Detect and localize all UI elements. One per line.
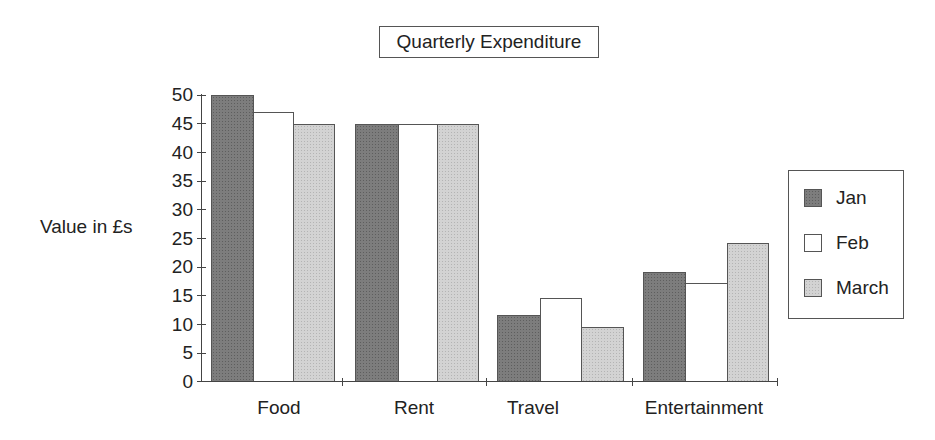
y-tick-label: 0 — [153, 372, 193, 391]
y-tick-mark — [197, 123, 206, 124]
x-category-label-travel: Travel — [453, 397, 613, 419]
legend-item-march: March — [804, 277, 889, 299]
y-tick-mark — [197, 95, 206, 96]
chart-title-text: Quarterly Expenditure — [397, 31, 582, 53]
bar-travel-march — [581, 327, 624, 382]
y-tick-mark — [197, 209, 206, 210]
bar-travel-feb — [540, 298, 582, 382]
y-tick-label: 10 — [153, 315, 193, 334]
y-tick-mark — [197, 152, 206, 153]
x-category-label-entertainment: Entertainment — [624, 397, 784, 419]
legend-item-feb: Feb — [804, 232, 869, 254]
y-axis-label: Value in £s — [40, 216, 133, 238]
bar-rent-jan — [355, 124, 399, 382]
y-tick-label: 5 — [153, 343, 193, 362]
bar-food-march — [293, 124, 335, 382]
x-axis-line — [201, 381, 778, 382]
bar-travel-jan — [497, 315, 541, 382]
y-tick-label: 30 — [153, 200, 193, 219]
legend-swatch-feb — [804, 234, 822, 252]
bar-entertainment-feb — [685, 283, 728, 382]
x-tick-mark — [632, 378, 633, 386]
bar-entertainment-march — [727, 243, 769, 382]
bar-food-jan — [211, 95, 254, 382]
y-tick-label: 20 — [153, 257, 193, 276]
bar-food-feb — [253, 112, 294, 382]
y-tick-mark — [197, 324, 206, 325]
y-tick-label: 15 — [153, 286, 193, 305]
y-tick-label: 40 — [153, 143, 193, 162]
y-tick-mark — [197, 267, 206, 268]
x-tick-mark — [342, 378, 343, 386]
y-tick-mark — [197, 353, 206, 354]
y-tick-label: 50 — [153, 85, 193, 104]
y-tick-mark — [197, 181, 206, 182]
y-tick-mark — [197, 295, 206, 296]
y-tick-label: 25 — [153, 229, 193, 248]
legend-label: March — [836, 277, 889, 299]
legend-item-jan: Jan — [804, 187, 867, 209]
legend-swatch-jan — [804, 189, 822, 207]
x-tick-mark — [777, 378, 778, 386]
bar-rent-feb — [398, 124, 438, 382]
x-tick-mark — [486, 378, 487, 386]
bar-rent-march — [437, 124, 479, 382]
y-tick-mark — [197, 238, 206, 239]
y-tick-label: 45 — [153, 114, 193, 133]
legend-label: Jan — [836, 187, 867, 209]
legend-label: Feb — [836, 232, 869, 254]
y-tick-label: 35 — [153, 171, 193, 190]
chart-title: Quarterly Expenditure — [379, 26, 599, 58]
legend: Jan Feb March — [788, 170, 904, 319]
legend-swatch-march — [804, 279, 822, 297]
bar-entertainment-jan — [643, 272, 686, 382]
